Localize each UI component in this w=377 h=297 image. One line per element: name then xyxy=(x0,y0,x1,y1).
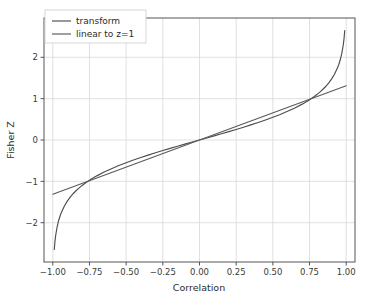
x-tick-label: 0.75 xyxy=(300,267,319,277)
x-axis-label: Correlation xyxy=(173,282,225,293)
x-tick-label: −1.00 xyxy=(40,267,66,277)
legend-label: linear to z=1 xyxy=(76,29,134,39)
figure-background xyxy=(0,0,377,297)
x-tick-label: −0.75 xyxy=(76,267,102,277)
chart-legend: transformlinear to z=1 xyxy=(45,10,146,43)
y-axis-label: Fisher Z xyxy=(5,121,16,159)
legend-label: transform xyxy=(76,16,120,26)
x-tick-label: 0.00 xyxy=(190,267,209,277)
y-tick-label: −2 xyxy=(25,218,38,228)
x-tick-label: −0.25 xyxy=(150,267,176,277)
y-tick-label: 2 xyxy=(33,52,38,62)
y-tick-label: 1 xyxy=(33,94,38,104)
x-tick-label: −0.50 xyxy=(113,267,139,277)
y-tick-label: 0 xyxy=(33,135,38,145)
x-tick-label: 0.50 xyxy=(263,267,282,277)
chart-figure: −1.00−0.75−0.50−0.250.000.250.500.751.00… xyxy=(0,0,377,297)
x-tick-label: 0.25 xyxy=(227,267,246,277)
fisher-z-plot: −1.00−0.75−0.50−0.250.000.250.500.751.00… xyxy=(0,0,377,297)
x-tick-label: 1.00 xyxy=(337,267,356,277)
y-tick-label: −1 xyxy=(25,177,38,187)
